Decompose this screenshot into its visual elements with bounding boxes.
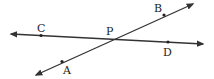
point-label-p: P: [106, 26, 113, 37]
point-label-d: D: [163, 47, 172, 58]
line-AB: [36, 4, 193, 75]
point-b-dot: [162, 13, 165, 16]
point-a-dot: [60, 60, 63, 63]
point-label-c: C: [37, 23, 45, 34]
diagram: CPDBA: [0, 0, 214, 79]
point-label-b: B: [154, 3, 162, 14]
point-d-dot: [166, 40, 169, 43]
point-label-a: A: [63, 65, 71, 76]
lines-canvas: [0, 0, 214, 79]
